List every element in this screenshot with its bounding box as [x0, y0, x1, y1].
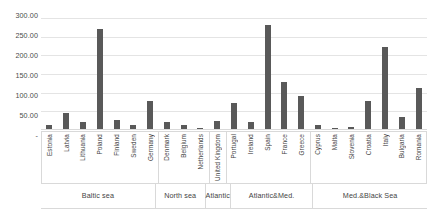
- category-label: Italy: [382, 134, 389, 146]
- bar-series: [41, 18, 427, 129]
- category-tick: France: [276, 132, 293, 183]
- category-tick: Estonia: [41, 132, 58, 183]
- category-label: Estonia: [46, 134, 53, 156]
- category-label: Cyprus: [314, 134, 321, 155]
- y-axis-tick-label: -: [36, 132, 39, 139]
- bar-slot: [343, 18, 360, 129]
- group-separator: [209, 131, 210, 183]
- bar-slot: [209, 18, 226, 129]
- group-slot: North sea: [156, 184, 206, 208]
- bar-slot: [108, 18, 125, 129]
- bar-slot: [41, 18, 58, 129]
- y-axis: 300.00250.00200.00150.00100.0050.00-: [0, 15, 40, 135]
- bar: [382, 47, 388, 129]
- bar: [164, 122, 170, 129]
- bar: [365, 101, 371, 129]
- category-label: Netherlands: [197, 134, 204, 170]
- category-tick: Croatia: [360, 132, 377, 183]
- group-label: Med.&Black Sea: [343, 192, 398, 200]
- bar-slot: [91, 18, 108, 129]
- category-tick: Romania: [410, 132, 427, 183]
- plot-area: [41, 18, 427, 130]
- bar: [399, 117, 405, 129]
- bar-slot: [310, 18, 327, 129]
- category-label: Spain: [264, 134, 271, 151]
- category-tick: Latvia: [58, 132, 75, 183]
- category-label: Ireland: [247, 134, 254, 154]
- bar-slot: [142, 18, 159, 129]
- bar-slot: [259, 18, 276, 129]
- category-label: Portugal: [230, 134, 237, 159]
- group-separator: [226, 131, 227, 183]
- y-axis-tick-label: 300.00: [15, 12, 38, 19]
- bar: [114, 120, 120, 129]
- bar: [248, 122, 254, 129]
- bar: [80, 122, 86, 129]
- bar: [63, 113, 69, 129]
- category-tick: Slovenia: [343, 132, 360, 183]
- bar-slot: [410, 18, 427, 129]
- group-slot: Atlantic: [206, 184, 231, 208]
- bar-slot: [226, 18, 243, 129]
- y-axis-tick-label: 50.00: [20, 112, 39, 119]
- category-label: Denmark: [163, 134, 170, 161]
- group-label: Baltic sea: [82, 192, 114, 200]
- category-tick: Poland: [91, 132, 108, 183]
- category-label: Belgium: [180, 134, 187, 158]
- group-separator: [310, 131, 311, 183]
- category-tick: Germany: [142, 132, 159, 183]
- group-axis: Baltic seaNorth seaAtlanticAtlantic&Med.…: [41, 183, 427, 209]
- bar: [281, 82, 287, 129]
- group-separator: [158, 131, 159, 183]
- category-tick: Ireland: [242, 132, 259, 183]
- y-axis-tick-label: 250.00: [15, 32, 38, 39]
- group-slot: Atlantic&Med.: [231, 184, 313, 208]
- bar: [214, 121, 220, 129]
- category-tick: Sweden: [125, 132, 142, 183]
- category-label: France: [281, 134, 288, 155]
- category-tick: Lithuania: [75, 132, 92, 183]
- category-tick: Spain: [259, 132, 276, 183]
- category-axis: EstoniaLatviaLithuaniaPolandFinlandSwede…: [41, 131, 427, 183]
- category-tick: Bulgaria: [393, 132, 410, 183]
- group-label: Atlantic&Med.: [249, 192, 295, 200]
- y-axis-tick-label: 200.00: [15, 52, 38, 59]
- bar-slot: [393, 18, 410, 129]
- category-label: Poland: [96, 134, 103, 155]
- category-axis-right-edge: [426, 131, 427, 183]
- bar: [265, 25, 271, 129]
- group-label: Atlantic: [206, 192, 230, 200]
- category-label: Romania: [415, 134, 422, 160]
- bar-slot: [58, 18, 75, 129]
- y-axis-tick-label: 100.00: [15, 92, 38, 99]
- bar-slot: [276, 18, 293, 129]
- category-tick: Italy: [377, 132, 394, 183]
- group-slot: Med.&Black Sea: [313, 184, 427, 208]
- bar-chart: 300.00250.00200.00150.00100.0050.00- Est…: [0, 0, 436, 223]
- bar-slot: [242, 18, 259, 129]
- bar: [416, 88, 422, 129]
- y-axis-tick-label: 150.00: [15, 72, 38, 79]
- category-label: United Kingdom: [214, 134, 221, 181]
- bar: [97, 29, 103, 129]
- bar-slot: [293, 18, 310, 129]
- category-tick: Finland: [108, 132, 125, 183]
- category-tick: Denmark: [158, 132, 175, 183]
- category-label: Slovenia: [348, 134, 355, 159]
- group-slot: Baltic sea: [41, 184, 156, 208]
- category-tick: Malta: [326, 132, 343, 183]
- bar-slot: [125, 18, 142, 129]
- category-tick: Greece: [293, 132, 310, 183]
- category-label: Bulgaria: [398, 134, 405, 158]
- category-label: Latvia: [63, 134, 70, 152]
- bar-slot: [175, 18, 192, 129]
- category-label: Lithuania: [79, 134, 86, 161]
- bar-slot: [75, 18, 92, 129]
- axis-baseline: [41, 129, 427, 130]
- bar-slot: [192, 18, 209, 129]
- category-label: Malta: [331, 134, 338, 150]
- bar-slot: [377, 18, 394, 129]
- bar-slot: [158, 18, 175, 129]
- category-tick: Netherlands: [192, 132, 209, 183]
- category-label: Croatia: [365, 134, 372, 155]
